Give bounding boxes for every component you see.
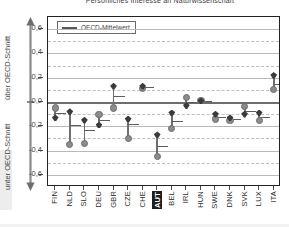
mean-tick [128,124,139,125]
y-tick-mark [38,101,43,102]
marker-diamond[interactable] [256,110,263,117]
x-tick-mark [273,186,274,190]
mean-tick [274,84,280,85]
x-axis-label-irl[interactable]: IRL [181,191,190,203]
marker-diamond[interactable] [125,116,132,123]
marker-circle[interactable] [241,103,248,110]
marker-circle[interactable] [168,125,175,132]
gridline-minor [48,90,279,91]
x-tick-mark [229,186,230,190]
marker-circle[interactable] [183,94,190,101]
marker-diamond[interactable] [110,83,117,90]
x-axis-label-che[interactable]: CHE [138,191,147,207]
page-title: Persönliches Interesse an Naturwissensch… [40,0,280,4]
x-axis-label-nld[interactable]: NLD [65,191,74,207]
x-axis-label-lux[interactable]: LUX [254,191,263,206]
x-axis-label-bel[interactable]: BEL [167,191,176,206]
gridline-minor [48,163,279,164]
marker-circle[interactable] [270,86,277,93]
gridline [48,175,279,176]
axis-label-below: unter OECD-Schnitt [3,104,12,190]
mean-tick [99,120,110,121]
mean-tick [157,146,168,147]
gridline-minor [48,66,279,67]
connector-line [69,112,71,145]
marker-circle[interactable] [125,135,132,142]
x-tick-mark [171,186,172,190]
marker-circle[interactable] [95,111,102,118]
x-tick-mark [185,186,186,190]
x-tick-mark [156,186,157,190]
mean-tick [172,121,183,122]
marker-circle[interactable] [66,141,73,148]
marker-circle[interactable] [52,104,59,111]
mean-tick [70,125,81,126]
x-tick-mark [127,186,128,190]
mean-tick [84,130,95,131]
marker-diamond[interactable] [168,110,175,117]
x-axis-label-gbr[interactable]: GBR [109,191,118,208]
y-tick-mark [38,150,43,151]
marker-circle[interactable] [81,140,88,147]
x-axis-label-aut[interactable]: AUT [152,191,162,209]
y-tick-mark [38,28,43,29]
legend: OECD-Mittelwert [57,21,136,34]
mean-tick [186,102,197,103]
marker-circle[interactable] [110,104,117,111]
gridline-minor [48,41,279,42]
marker-diamond[interactable] [52,114,59,121]
x-axis-label-cze[interactable]: CZE [123,191,132,207]
y-tick-mark [38,77,43,78]
x-tick-mark [98,186,99,190]
gridline [48,151,279,152]
x-axis-label-slo[interactable]: SLO [79,191,88,207]
x-axis-label-deu[interactable]: DEU [94,191,103,207]
y-tick-mark [38,125,43,126]
gridline [48,78,279,79]
gridline [48,29,279,30]
x-tick-mark [244,186,245,190]
x-tick-mark [142,186,143,190]
axis-label-above: über OECD-Schnitt [3,22,12,100]
x-tick-mark [113,186,114,190]
x-tick-mark [214,186,215,190]
gridline [48,53,279,54]
marker-diamond[interactable] [81,117,88,124]
x-tick-mark [83,186,84,190]
mean-tick [245,111,256,112]
plot-area: OECD-Mittelwert [47,16,280,186]
y-tick-mark [38,174,43,175]
x-tick-mark [258,186,259,190]
marker-diamond[interactable] [241,111,248,118]
chart-figure: Persönliches Interesse an Naturwissensch… [0,0,289,227]
mean-tick [114,96,125,97]
x-axis-label-fin[interactable]: FIN [50,191,59,204]
marker-diamond[interactable] [154,131,161,138]
x-tick-mark [54,186,55,190]
marker-diamond[interactable] [96,122,103,129]
y-tick-mark [38,52,43,53]
x-tick-mark [69,186,70,190]
x-tick-mark [200,186,201,190]
x-axis-label-svk[interactable]: SVK [240,191,249,207]
marker-circle[interactable] [154,153,161,160]
x-axis-label-ita[interactable]: ITA [269,191,278,203]
x-axis-label-dnk[interactable]: DNK [225,191,234,207]
x-axis-label-hun[interactable]: HUN [196,191,205,208]
x-axis-label-swe[interactable]: SWE [210,191,219,209]
marker-circle[interactable] [256,117,263,124]
y-axis-ticks: 0,60,40,20,0-0,2-0,4-0,6 [12,0,42,227]
mean-tick [55,113,66,114]
x-axis-ticks: FINNLDSLODEUGBRCZECHEAUTBELIRLHUNSWEDNKS… [47,186,280,227]
